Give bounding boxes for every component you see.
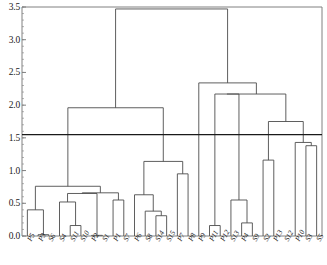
dendrogram-tree [27,9,316,236]
dendrogram-link [135,195,154,236]
dendrogram-link [177,174,188,236]
dendrogram-link [268,122,303,161]
y-axis-tick-label: 1.5 [0,133,20,143]
y-axis-tick-label: 3.0 [0,35,20,45]
dendrogram-link [116,9,228,108]
dendrogram-link [144,161,183,194]
y-axis-tick-label: 2.5 [0,67,20,77]
y-axis-tick-label: 3.5 [0,2,20,12]
dendrogram-link [295,142,311,236]
y-axis-tick-label: 1.0 [0,166,20,176]
y-axis-tick-label: 0.5 [0,198,20,208]
y-axis-tick-label: 0.0 [0,231,20,241]
dendrogram-plot [0,0,327,265]
dendrogram-link [215,94,239,226]
dendrogram-link [306,146,317,236]
dendrogram-link [68,108,163,187]
dendrogram-link [227,94,286,121]
dendrogram-link [263,160,274,236]
y-axis-tick-label: 2.0 [0,100,20,110]
dendrogram-figure: 0.00.51.01.52.02.53.03.5 P5P3S6S4S11S10P… [0,0,327,265]
dendrogram-link [199,83,257,236]
